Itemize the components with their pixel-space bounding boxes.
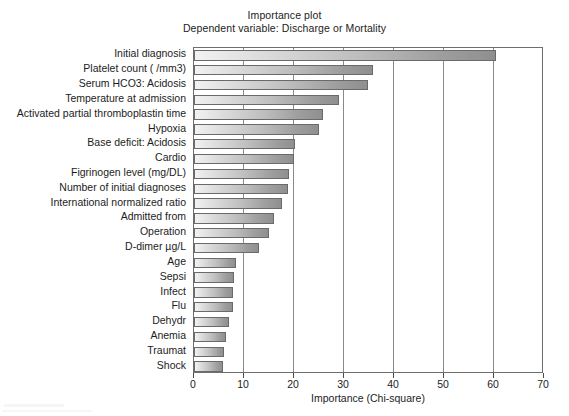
scan-artifact (4, 404, 64, 407)
bar-row (194, 272, 542, 282)
bar-row (194, 317, 542, 327)
bar-row (194, 213, 542, 223)
x-axis-tick-label: 10 (228, 378, 258, 390)
bar-row (194, 80, 542, 90)
y-axis-tick-label: International normalized ratio (51, 197, 186, 208)
bar (194, 154, 294, 164)
y-axis-tick-label: Base deficit: Acidosis (87, 137, 186, 148)
y-axis-tick-label: Shock (157, 360, 186, 371)
bar-row (194, 95, 542, 105)
bar-row (194, 154, 542, 164)
bar-row (194, 65, 542, 75)
bar (194, 272, 234, 282)
bar (194, 332, 226, 342)
y-axis-tick-label: D-dimer µg/L (125, 241, 186, 252)
bar (194, 109, 323, 119)
y-axis-tick-label: Figrinogen level (mg/DL) (71, 167, 186, 178)
y-axis-tick-label: Platelet count ( /mm3) (83, 63, 186, 74)
bar (194, 95, 339, 105)
x-axis-title: Importance (Chi-square) (193, 392, 543, 404)
y-axis-tick-label: Operation (140, 226, 186, 237)
bar-row (194, 228, 542, 238)
bar (194, 213, 274, 223)
y-axis-tick-label: Activated partial thromboplastin time (17, 108, 186, 119)
x-axis-tick-label: 60 (478, 378, 508, 390)
bar (194, 169, 289, 179)
x-axis-tick-labels: 010203040506070 (0, 378, 569, 392)
bar (194, 302, 233, 312)
scan-artifact (2, 410, 92, 412)
bar (194, 65, 373, 75)
y-axis-tick-label: Sepsi (160, 271, 186, 282)
bar-row (194, 139, 542, 149)
importance-plot-figure: Importance plot Dependent variable: Disc… (0, 0, 569, 416)
bar (194, 50, 496, 60)
bar (194, 347, 224, 357)
bar (194, 243, 259, 253)
bar-row (194, 258, 542, 268)
bar (194, 184, 288, 194)
bar-row (194, 287, 542, 297)
y-axis-tick-label: Flu (171, 300, 186, 311)
y-axis-tick-label: Initial diagnosis (114, 48, 186, 59)
bar (194, 80, 368, 90)
bar (194, 139, 295, 149)
bar-row (194, 109, 542, 119)
bar-row (194, 332, 542, 342)
bar-row (194, 302, 542, 312)
y-axis-tick-label: Serum HCO3: Acidosis (79, 78, 186, 89)
y-axis-tick-label: Admitted from (121, 211, 186, 222)
bar-row (194, 361, 542, 371)
bar-row (194, 184, 542, 194)
bar-row (194, 50, 542, 60)
y-axis-tick-label: Anemia (150, 330, 186, 341)
y-axis-tick-label: Age (167, 256, 186, 267)
x-axis-tick-label: 0 (178, 378, 208, 390)
bar (194, 287, 233, 297)
plot-area (193, 47, 543, 373)
bar (194, 124, 319, 134)
y-axis-tick-label: Temperature at admission (65, 93, 186, 104)
bar-row (194, 198, 542, 208)
x-axis-tick-label: 40 (378, 378, 408, 390)
y-axis-tick-label: Number of initial diagnoses (59, 182, 186, 193)
bar (194, 361, 223, 371)
bar (194, 198, 282, 208)
x-axis-tick-label: 20 (278, 378, 308, 390)
bar-row (194, 243, 542, 253)
chart-title-block: Importance plot Dependent variable: Disc… (0, 9, 569, 35)
x-axis-tick-label: 70 (528, 378, 558, 390)
x-axis-tick-label: 50 (428, 378, 458, 390)
bar-row (194, 169, 542, 179)
y-axis-tick-label: Hypoxia (148, 123, 186, 134)
bar (194, 317, 229, 327)
chart-title: Importance plot (0, 9, 569, 22)
chart-subtitle: Dependent variable: Discharge or Mortali… (0, 22, 569, 35)
bar (194, 258, 236, 268)
bar-row (194, 124, 542, 134)
bar-row (194, 347, 542, 357)
y-axis-tick-label: Cardio (155, 152, 186, 163)
y-axis-tick-label: Infect (160, 286, 186, 297)
x-axis-tick-label: 30 (328, 378, 358, 390)
y-axis-tick-label: Traumat (147, 345, 186, 356)
y-axis-labels: Initial diagnosisPlatelet count ( /mm3)S… (0, 47, 190, 373)
y-axis-tick-label: Dehydr (152, 315, 186, 326)
bar-series (194, 48, 542, 372)
bar (194, 228, 269, 238)
